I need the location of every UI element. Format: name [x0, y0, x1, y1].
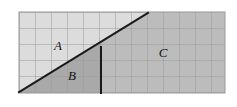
figure-canvas	[0, 0, 237, 107]
region-label-b: B	[68, 69, 76, 82]
shaded-regions	[19, 12, 225, 93]
region-label-a: A	[54, 39, 62, 52]
geometry-figure: A B C	[0, 0, 237, 107]
grid-lines	[19, 12, 225, 93]
region-label-c: C	[159, 46, 168, 59]
